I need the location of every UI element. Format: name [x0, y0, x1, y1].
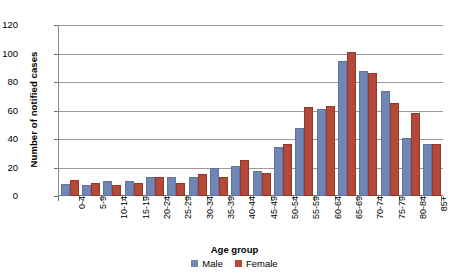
bar-chart: Number of notified cases 020406080100120…: [0, 0, 469, 279]
x-tick-label-cell: 75-79: [378, 201, 399, 241]
x-tick-label: 80-84: [410, 184, 420, 222]
x-tick-label: 75-79: [389, 184, 399, 222]
x-tick-label-cell: 25-29: [165, 201, 186, 241]
legend-entry-female: Female: [235, 258, 278, 269]
bar-group: [208, 25, 229, 196]
x-tick-label: 50-54: [282, 184, 292, 222]
x-tick-label-cell: 35-39: [207, 201, 228, 241]
bar-female: [326, 106, 335, 196]
bar-male: [359, 71, 368, 196]
bar-group: [422, 25, 443, 196]
bar-group: [272, 25, 293, 196]
bar-group: [230, 25, 251, 196]
y-tick-label: 20: [0, 163, 18, 173]
x-tick-label: 15-19: [133, 184, 143, 222]
x-tick-label-cell: 80-84: [399, 201, 420, 241]
plot-area: [58, 25, 443, 196]
x-tick-label: 65-69: [346, 184, 356, 222]
x-tick-label-cell: 20-24: [143, 201, 164, 241]
x-tick-label-cell: 60-64: [314, 201, 335, 241]
x-axis-title: Age group: [0, 244, 469, 255]
x-tick-label-cell: 70-74: [357, 201, 378, 241]
bar-male: [381, 91, 390, 196]
x-tick-label: 55-59: [303, 184, 313, 222]
y-tick-label: 100: [0, 49, 18, 59]
bar-group: [294, 25, 315, 196]
bar-female: [368, 73, 377, 196]
x-tick-label-cell: 30-34: [186, 201, 207, 241]
bar-group: [251, 25, 272, 196]
x-tick-label-cell: 15-19: [122, 201, 143, 241]
legend-swatch-male: [191, 260, 198, 267]
x-tick-label: 60-64: [325, 184, 335, 222]
x-tick-label: 10-14: [111, 184, 121, 222]
y-axis-title: Number of notified cases: [28, 30, 39, 190]
x-tick-label: 45-49: [261, 184, 271, 222]
y-tick-label: 40: [0, 134, 18, 144]
x-tick-label-cell: 10-14: [101, 201, 122, 241]
bar-group: [315, 25, 336, 196]
bar-female: [304, 107, 313, 196]
y-tick-label: 0: [0, 191, 18, 201]
x-tick-label: 30-34: [197, 184, 207, 222]
chart-legend: MaleFemale: [0, 258, 469, 269]
legend-swatch-female: [235, 260, 242, 267]
bar-group: [358, 25, 379, 196]
x-tick-label: 85+: [431, 184, 441, 222]
bar-group: [379, 25, 400, 196]
bar-group: [400, 25, 421, 196]
x-tick-label: 20-24: [154, 184, 164, 222]
x-tick-label: 0-4: [69, 184, 79, 222]
x-tick-label: 40-44: [239, 184, 249, 222]
bar-female: [347, 52, 356, 197]
x-tick-label-cell: 50-54: [271, 201, 292, 241]
x-tick-label: 35-39: [218, 184, 228, 222]
bar-group: [144, 25, 165, 196]
x-tick-label-cell: 40-44: [229, 201, 250, 241]
bar-group: [166, 25, 187, 196]
bar-female: [390, 103, 399, 196]
x-tick-label-cell: 45-49: [250, 201, 271, 241]
x-tick-label-cell: 55-59: [293, 201, 314, 241]
x-axis-tick-labels: 0-45-910-1415-1920-2425-2930-3435-3940-4…: [58, 201, 442, 241]
legend-label: Male: [202, 258, 223, 269]
y-tick-label: 120: [0, 20, 18, 30]
x-tick-label-cell: 5-9: [79, 201, 100, 241]
bar-group: [102, 25, 123, 196]
x-tick-label-cell: 0-4: [58, 201, 79, 241]
x-tick-label-cell: 85+: [421, 201, 442, 241]
bar-group: [80, 25, 101, 196]
bar-group: [123, 25, 144, 196]
bar-group: [187, 25, 208, 196]
x-tick-label: 70-74: [367, 184, 377, 222]
bar-group: [336, 25, 357, 196]
x-tick-label: 5-9: [90, 184, 100, 222]
legend-label: Female: [246, 258, 278, 269]
bar-groups: [59, 25, 443, 196]
y-tick-label: 60: [0, 106, 18, 116]
y-tick-label: 80: [0, 77, 18, 87]
bar-male: [317, 109, 326, 197]
legend-entry-male: Male: [191, 258, 223, 269]
bar-male: [338, 61, 347, 196]
x-tick-label-cell: 65-69: [335, 201, 356, 241]
bar-group: [59, 25, 80, 196]
x-tick-label: 25-29: [175, 184, 185, 222]
